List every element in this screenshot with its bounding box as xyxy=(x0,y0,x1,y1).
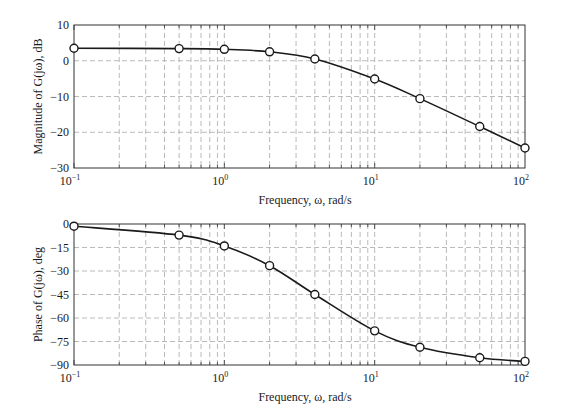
data-point-marker xyxy=(476,354,484,362)
y-tick-label: −20 xyxy=(50,125,69,139)
data-point-marker xyxy=(311,55,319,63)
grid xyxy=(74,224,525,365)
y-tick-label: −75 xyxy=(50,335,69,349)
x-tick-label: 102 xyxy=(513,173,529,188)
x-axis-label: Frequency, ω, rad/s xyxy=(258,390,351,404)
data-curve xyxy=(74,48,525,148)
bode-plot: 100−10−20−3010−1100101102Frequency, ω, r… xyxy=(0,0,565,411)
y-tick-label: −30 xyxy=(50,264,69,278)
x-tick-label: 101 xyxy=(363,370,379,385)
data-point-marker xyxy=(476,123,484,131)
data-point-marker xyxy=(416,95,424,103)
y-tick-label: −10 xyxy=(50,90,69,104)
x-tick-label: 100 xyxy=(212,370,228,385)
x-tick-label: 102 xyxy=(513,370,529,385)
x-tick-label: 10−1 xyxy=(60,370,81,385)
data-point-marker xyxy=(220,242,228,250)
data-point-marker xyxy=(521,357,529,365)
data-point-marker xyxy=(311,291,319,299)
y-tick-label: −45 xyxy=(50,288,69,302)
y-tick-label: 0 xyxy=(63,54,69,68)
data-point-marker xyxy=(70,222,78,230)
x-tick-label: 101 xyxy=(363,173,379,188)
y-tick-label: −30 xyxy=(50,161,69,175)
data-point-marker xyxy=(175,45,183,53)
data-point-marker xyxy=(70,44,78,52)
magnitude-plot: 100−10−20−3010−1100101102Frequency, ω, r… xyxy=(31,18,529,207)
data-point-marker xyxy=(521,144,529,152)
x-tick-label: 100 xyxy=(212,173,228,188)
data-point-marker xyxy=(175,231,183,239)
grid xyxy=(74,25,525,168)
data-point-marker xyxy=(220,45,228,53)
y-tick-label: 10 xyxy=(57,18,69,32)
phase-plot: 0−15−30−45−60−75−9010−1100101102Frequenc… xyxy=(31,217,529,404)
data-point-marker xyxy=(371,327,379,335)
y-tick-label: −60 xyxy=(50,311,69,325)
y-tick-label: 0 xyxy=(63,217,69,231)
data-point-marker xyxy=(266,48,274,56)
data-point-marker xyxy=(266,262,274,270)
y-tick-label: −90 xyxy=(50,358,69,372)
data-point-marker xyxy=(371,75,379,83)
data-point-marker xyxy=(416,343,424,351)
y-axis-label: Magnitude of G(jω), dB xyxy=(31,39,45,155)
x-axis-label: Frequency, ω, rad/s xyxy=(258,193,351,207)
y-axis-label: Phase of G(jω), deg xyxy=(31,247,45,342)
x-tick-label: 10−1 xyxy=(60,173,81,188)
y-tick-label: −15 xyxy=(50,241,69,255)
